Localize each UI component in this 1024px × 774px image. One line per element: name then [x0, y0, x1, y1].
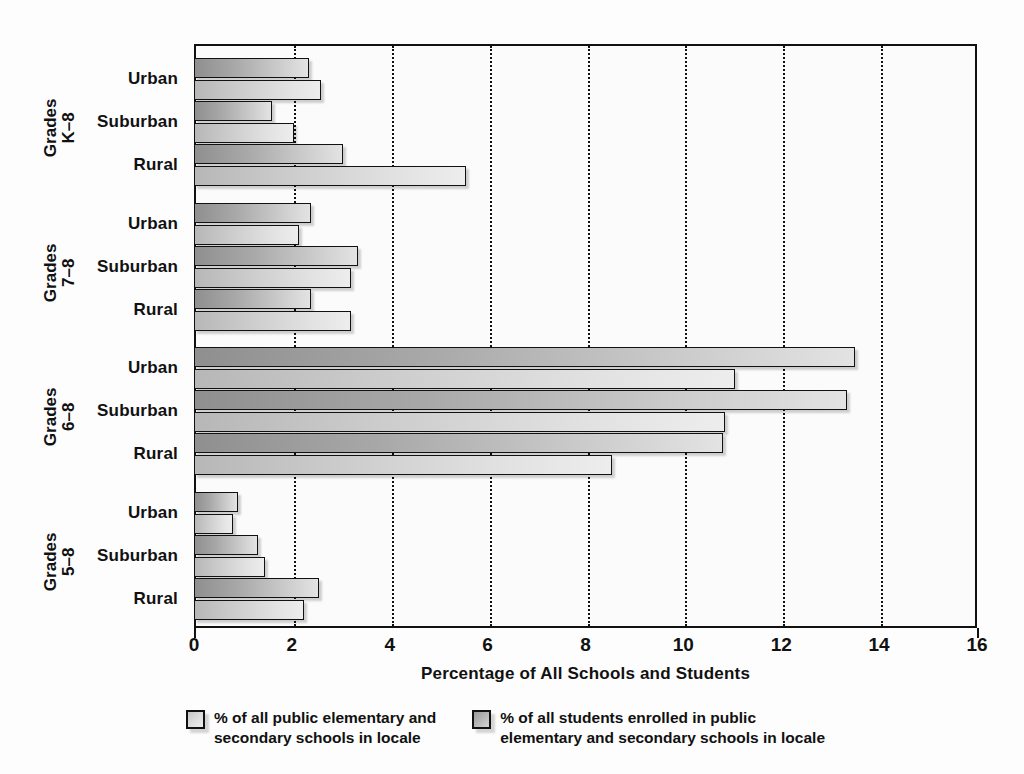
x-tick-label-4: 4: [384, 634, 395, 656]
x-axis-title: Percentage of All Schools and Students: [194, 664, 977, 684]
gridline-6: [490, 46, 492, 626]
category-label-rural: Rural: [134, 589, 178, 609]
gridline-14: [881, 46, 883, 626]
legend-swatch-students-icon: [472, 710, 491, 729]
category-label-urban: Urban: [128, 69, 178, 89]
gridline-8: [588, 46, 590, 626]
x-tick-label-6: 6: [482, 634, 493, 656]
legend-label-schools: % of all public elementary and secondary…: [214, 708, 436, 749]
category-label-urban: Urban: [128, 214, 178, 234]
legend-entry-schools[interactable]: % of all public elementary and secondary…: [186, 708, 436, 749]
gridline-4: [392, 46, 394, 626]
x-tick-label-8: 8: [580, 634, 591, 656]
legend-swatch-schools-icon: [186, 710, 205, 729]
category-label-rural: Rural: [134, 444, 178, 464]
gridline-10: [685, 46, 687, 626]
x-tick-label-12: 12: [771, 634, 792, 656]
category-label-suburban: Suburban: [97, 112, 178, 132]
x-tick-label-10: 10: [673, 634, 694, 656]
x-tick-mark-0: [194, 628, 196, 638]
x-tick-label-2: 2: [287, 634, 298, 656]
gridline-2: [294, 46, 296, 626]
category-label-urban: Urban: [128, 358, 178, 378]
category-label-urban: Urban: [128, 503, 178, 523]
category-label-rural: Rural: [134, 155, 178, 175]
chart-legend: % of all public elementary and secondary…: [186, 708, 976, 749]
category-label-rural: Rural: [134, 300, 178, 320]
category-label-suburban: Suburban: [97, 401, 178, 421]
category-axis-labels: UrbanSuburbanRuralUrbanSuburbanRuralUrba…: [0, 44, 188, 628]
x-axis-tick-labels: 0246810121416: [194, 634, 977, 660]
x-tick-label-14: 14: [869, 634, 890, 656]
plot-area: [194, 44, 977, 628]
x-tick-mark-16: [977, 628, 979, 638]
chart-figure: GradesK–8Grades7–8Grades6–8Grades5–8 Urb…: [0, 0, 1024, 774]
legend-label-students: % of all students enrolled in public ele…: [500, 708, 825, 749]
gridline-12: [783, 46, 785, 626]
category-label-suburban: Suburban: [97, 546, 178, 566]
legend-entry-students[interactable]: % of all students enrolled in public ele…: [472, 708, 825, 749]
category-label-suburban: Suburban: [97, 257, 178, 277]
